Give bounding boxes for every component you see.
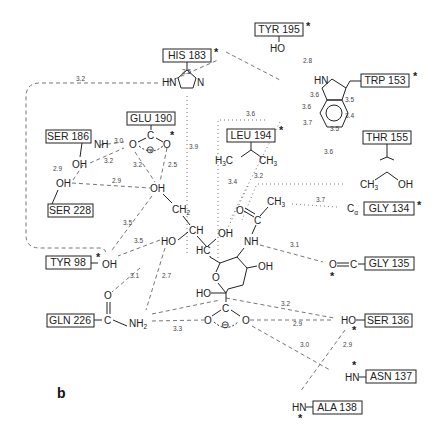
panel-label: b — [57, 385, 66, 401]
residue-label: GLN 226 — [49, 314, 91, 326]
atom-o: O — [129, 139, 137, 150]
distance-label: 3.5 — [330, 125, 339, 132]
hydrogen-bonds — [26, 52, 345, 392]
distance-label: 3.6 — [324, 148, 333, 155]
star-marker: * — [413, 70, 418, 82]
atom-c-alpha: Cα — [347, 203, 358, 216]
hbond-carb-asn137 — [252, 326, 330, 370]
atom-oh: OH — [258, 261, 273, 272]
atom-ch2: CH2 — [172, 204, 190, 216]
residue-label: LEU 194 — [231, 129, 272, 141]
atom-oh: OH — [150, 183, 165, 194]
residue-label: SER 186 — [47, 130, 89, 142]
star-marker: * — [96, 251, 101, 263]
residue-label: GLY 134 — [369, 202, 410, 214]
distance-label: 3.6 — [310, 91, 319, 98]
atom-ho: HO — [161, 236, 176, 247]
atom-nh2: NH2 — [129, 318, 147, 330]
residue-trp153: TRP 153 * HN — [314, 70, 418, 127]
residue-ser136: SER 136 HO * — [341, 314, 412, 336]
residue-label: SER 136 — [367, 314, 409, 326]
distance-label: 3.6 — [302, 103, 311, 110]
atom-ho: HO — [196, 288, 211, 299]
residue-gln226: GLN 226 C O NH2 — [47, 290, 147, 330]
distance-label: 2.5 — [182, 68, 191, 75]
atom-o: O — [329, 259, 337, 270]
distance-label: 3.1 — [290, 241, 299, 248]
star-marker: * — [352, 359, 357, 371]
residue-label: TYR 195 — [258, 23, 300, 35]
residue-glu190: GLU 190 C O O ⊖ * — [127, 112, 175, 155]
distance-label: 2.7 — [162, 272, 171, 279]
atom-ch3: CH3 — [259, 155, 277, 167]
star-marker: * — [306, 20, 311, 32]
distance-label: 3.4 — [228, 178, 237, 185]
distance-label: 2.9 — [293, 320, 302, 327]
residue-label: SER 228 — [49, 204, 91, 216]
residue-label: TRP 153 — [364, 74, 405, 86]
atom-hc: HC — [196, 245, 210, 256]
distance-label: 3.1 — [130, 272, 139, 279]
hbond-tyr195-trp153 — [226, 52, 280, 80]
vdw-ch3-gly134 — [292, 204, 337, 207]
residue-tyr98: TYR 98 OH * — [46, 251, 117, 270]
distance-label: 3.3 — [173, 325, 182, 332]
residue-label: GLY 135 — [369, 257, 410, 269]
distance-label: 3.5 — [134, 237, 143, 244]
residue-ala138: ALA 138 HN * — [292, 401, 362, 424]
star-marker: * — [417, 199, 422, 211]
residue-label: THR 155 — [366, 131, 408, 143]
distance-label: 3.4 — [345, 112, 354, 119]
residue-gly135: GLY 135 O C * — [329, 257, 414, 282]
atom-oh: OH — [72, 159, 87, 170]
atom-o: O — [204, 315, 212, 326]
atom-c: C — [147, 130, 154, 141]
atom-ch3: CH3 — [360, 179, 378, 191]
distance-label: 3.0 — [300, 341, 309, 348]
residue-asn137: ASN 137 HN * — [345, 359, 416, 383]
hbond-glu-oh9-b — [160, 148, 167, 182]
residue-gly134: GLY 134 * Cα — [347, 199, 422, 216]
hbond-gln-oh8 — [146, 248, 165, 310]
atom-ring-o: O — [212, 272, 220, 283]
hbond-ser136-ala138 — [300, 330, 345, 392]
distance-label: 3.2 — [254, 172, 263, 179]
residue-label: GLU 190 — [130, 112, 172, 124]
atom-nh: NH — [244, 236, 258, 247]
interaction-diagram: HIS 183 * HN N TYR 195 * HO TRP 153 * HN… — [0, 0, 438, 436]
residue-label: ALA 138 — [317, 401, 357, 413]
distance-label: 2.8 — [303, 57, 312, 64]
distance-label: 3.7 — [303, 119, 312, 126]
star-marker: * — [330, 270, 335, 282]
atom-c: C — [254, 215, 261, 226]
distance-label: 3.9 — [189, 143, 198, 150]
distance-label: 2.5 — [168, 161, 177, 168]
atom-oh: OH — [56, 178, 71, 189]
distance-label: 3.0 — [114, 137, 123, 144]
residue-leu194: LEU 194 * H3C CH3 — [215, 124, 284, 167]
distance-label: 3.5 — [345, 96, 354, 103]
atom-o: O — [104, 290, 112, 301]
distance-label: 3.2 — [281, 300, 290, 307]
negative-charge-icon: ⊖ — [221, 319, 229, 330]
star-marker: * — [214, 46, 219, 58]
distance-label: 3.2 — [133, 161, 142, 168]
atom-o: O — [242, 315, 250, 326]
residue-his183: HIS 183 * HN N — [162, 46, 219, 88]
residue-tyr195: TYR 195 * HO — [255, 20, 311, 54]
atom-ho: HO — [270, 43, 285, 54]
vdw-contacts — [187, 96, 345, 260]
atom-oh: OH — [398, 179, 413, 190]
distance-label: 3.7 — [316, 196, 325, 203]
star-marker: * — [298, 412, 303, 424]
atom-ch3: CH3 — [267, 196, 285, 208]
distance-label: 3.6 — [246, 110, 255, 117]
negative-charge-icon: ⊖ — [146, 144, 154, 155]
distance-labels: 3.2 2.5 2.8 3.6 3.6 3.5 3.4 3.7 3.5 3.6 … — [53, 57, 354, 348]
distance-label: 2.9 — [53, 165, 62, 172]
distance-label: 2.9 — [343, 341, 352, 348]
distance-label: 2.9 — [112, 177, 121, 184]
distance-label: 3.5 — [123, 219, 132, 226]
atom-oh: OH — [218, 228, 233, 239]
residue-label: TYR 98 — [50, 256, 86, 268]
